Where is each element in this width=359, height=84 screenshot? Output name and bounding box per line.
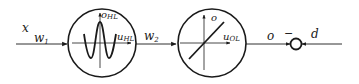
reference-connection: d bbox=[302, 27, 342, 44]
reference-label: d bbox=[311, 27, 319, 41]
output-layer-node: o uOL bbox=[178, 9, 246, 77]
input-connection: x w1 bbox=[16, 21, 67, 46]
output-label: o bbox=[267, 29, 274, 43]
neural-network-block-diagram: x w1 oHL uHL w2 o uOL o − bbox=[0, 0, 359, 84]
input-label: x bbox=[22, 21, 29, 35]
linear-activation-icon bbox=[180, 15, 230, 70]
weight-w1-label: w1 bbox=[34, 31, 49, 46]
summing-junction: − bbox=[284, 27, 302, 50]
hidden-to-output-connection: w2 bbox=[136, 29, 176, 44]
hidden-output-axis-label: oHL bbox=[101, 9, 118, 21]
weight-w2-label: w2 bbox=[144, 29, 159, 44]
hidden-layer-node: oHL uHL bbox=[68, 9, 136, 77]
output-input-axis-label: uOL bbox=[223, 31, 240, 43]
minus-sign: − bbox=[284, 27, 293, 40]
hidden-input-axis-label: uHL bbox=[117, 31, 135, 43]
output-axis-label: o bbox=[211, 12, 217, 23]
